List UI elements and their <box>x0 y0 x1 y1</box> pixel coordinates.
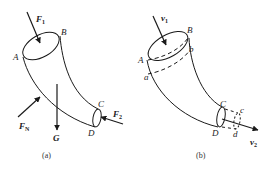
point-b-label: B <box>61 27 67 37</box>
gravity-label: G <box>53 133 60 143</box>
point-d-label: D <box>211 128 219 138</box>
point-a-label: A <box>12 52 19 62</box>
force-f1-label: F1 <box>35 14 45 25</box>
pipe-b <box>143 25 241 129</box>
point-c-lower-label: c <box>240 105 244 115</box>
outlet-section-cd <box>215 106 226 127</box>
pipe-outer-wall <box>23 57 95 127</box>
point-c-label: C <box>220 99 227 109</box>
pipe-inner-wall <box>60 36 98 109</box>
caption-a: (a) <box>42 151 51 160</box>
point-b-lower-label: b <box>189 44 194 54</box>
outlet-dashed-section <box>233 113 242 130</box>
pipe-a <box>18 26 102 127</box>
point-d-label: D <box>87 128 95 138</box>
outlet-section-cd <box>91 108 102 127</box>
point-d-lower-label: d <box>233 129 238 139</box>
point-b-label: B <box>187 25 193 35</box>
inlet-section-ab <box>18 26 64 65</box>
caption-b: (b) <box>196 151 206 160</box>
velocity-v2-arrow <box>222 119 258 130</box>
velocity-v2-label: v2 <box>250 137 257 148</box>
panel-a: F1 F2 FN G A B C D (a) <box>12 12 123 160</box>
inlet-section-ab <box>143 25 192 66</box>
point-a-label: A <box>137 55 144 65</box>
force-f2-label: F2 <box>112 109 122 120</box>
velocity-v1-label: v1 <box>161 13 168 24</box>
force-fn-label: FN <box>18 121 30 132</box>
point-c-label: C <box>98 99 105 109</box>
panel-b: v1 v2 A B b a C c D d (b) <box>137 13 258 160</box>
pipe-inner-wall <box>189 38 222 107</box>
point-a-lower-label: a <box>144 72 149 82</box>
force-fn-arrow <box>18 97 40 117</box>
